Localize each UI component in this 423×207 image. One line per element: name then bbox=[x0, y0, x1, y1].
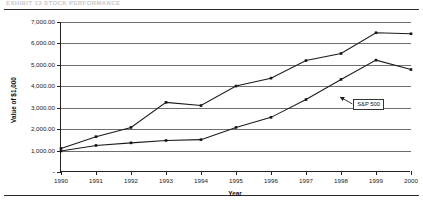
top-horizontal-rule bbox=[4, 9, 419, 10]
line-chart: Value of $1,000 Year -1,000.002,000.003,… bbox=[4, 12, 419, 192]
bottom-horizontal-rule bbox=[4, 195, 419, 196]
screenshot-stage: EXHIBIT 13 STOCK PERFORMANCE Value of $1… bbox=[0, 0, 423, 207]
page-header-text: EXHIBIT 13 STOCK PERFORMANCE bbox=[6, 0, 266, 7]
annotation-sp500-label: S&P 500 bbox=[353, 99, 384, 110]
